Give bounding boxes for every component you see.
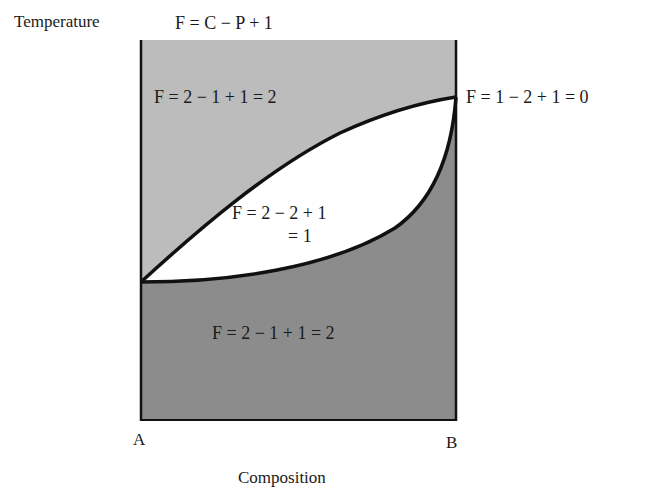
endpoint-b-label: B	[446, 433, 457, 453]
y-axis-label: Temperature	[14, 12, 100, 32]
title-equation-text: F = C − P + 1	[175, 13, 273, 33]
phase-diagram	[0, 0, 650, 497]
upper-region-label: F = 2 − 1 + 1 = 2	[154, 87, 277, 108]
endpoint-a-label: A	[133, 430, 145, 450]
invariant-point-label: F = 1 − 2 + 1 = 0	[466, 87, 589, 108]
x-axis-label: Composition	[238, 468, 326, 488]
title-equation: F = C − P + 1	[175, 13, 273, 34]
lens-label-line1: F = 2 − 2 + 1	[232, 203, 326, 224]
lens-label-line2: = 1	[288, 226, 312, 247]
lower-region-label: F = 2 − 1 + 1 = 2	[212, 323, 335, 344]
